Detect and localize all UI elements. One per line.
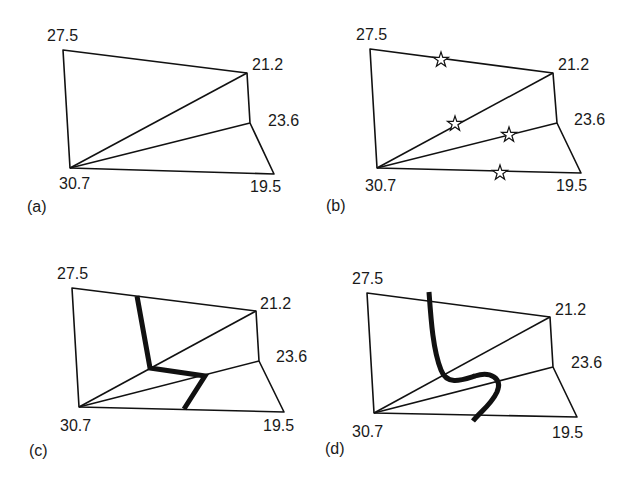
star-icon (434, 52, 449, 66)
star-icon (502, 127, 517, 141)
panel-d-caption: (d) (325, 441, 345, 457)
panel-a-value-bottom-right: 19.5 (250, 179, 281, 195)
triangulation-contour-figure: 27.5 21.2 23.6 30.7 19.5 (a) 27.5 21.2 2… (0, 0, 640, 479)
panel-c-value-bottom-left: 30.7 (60, 418, 91, 434)
panel-c-caption: (c) (29, 443, 48, 459)
panel-b-value-mid-right: 23.6 (574, 112, 605, 128)
panel-b-value-bottom-left: 30.7 (365, 178, 396, 194)
panel-c-value-mid-right: 23.6 (276, 349, 307, 365)
panel-a-triangulation (63, 50, 274, 174)
panel-b-caption: (b) (326, 198, 346, 214)
panel-a-value-bottom-left: 30.7 (59, 176, 90, 192)
panel-b-value-top-left: 27.5 (356, 27, 387, 43)
panel-d-value-bottom-left: 30.7 (352, 424, 383, 440)
panel-d-triangulation (367, 293, 577, 417)
panel-d-value-bottom-right: 19.5 (552, 425, 583, 441)
panel-a-value-mid-right: 23.6 (268, 113, 299, 129)
panel-a-caption: (a) (27, 199, 47, 215)
panel-d-contour-curve (429, 292, 498, 421)
panel-c-triangulation (72, 288, 284, 412)
panel-a-value-top-left: 27.5 (47, 28, 78, 44)
panel-c-contour-line (137, 296, 205, 409)
panel-b-triangulation (370, 49, 581, 173)
panel-d-value-mid-right: 23.6 (571, 355, 602, 371)
panel-c-value-top-right: 21.2 (260, 296, 291, 312)
panel-c-value-bottom-right: 19.5 (263, 418, 294, 434)
panel-a-value-top-right: 21.2 (252, 57, 283, 73)
panel-d-value-top-right: 21.2 (555, 302, 586, 318)
panel-c-value-top-left: 27.5 (57, 266, 88, 282)
panel-d-value-top-left: 27.5 (352, 271, 383, 287)
panel-b-value-top-right: 21.2 (558, 57, 589, 73)
star-icon (493, 165, 508, 179)
panel-b-value-bottom-right: 19.5 (556, 178, 587, 194)
figure-graphics (0, 0, 640, 479)
